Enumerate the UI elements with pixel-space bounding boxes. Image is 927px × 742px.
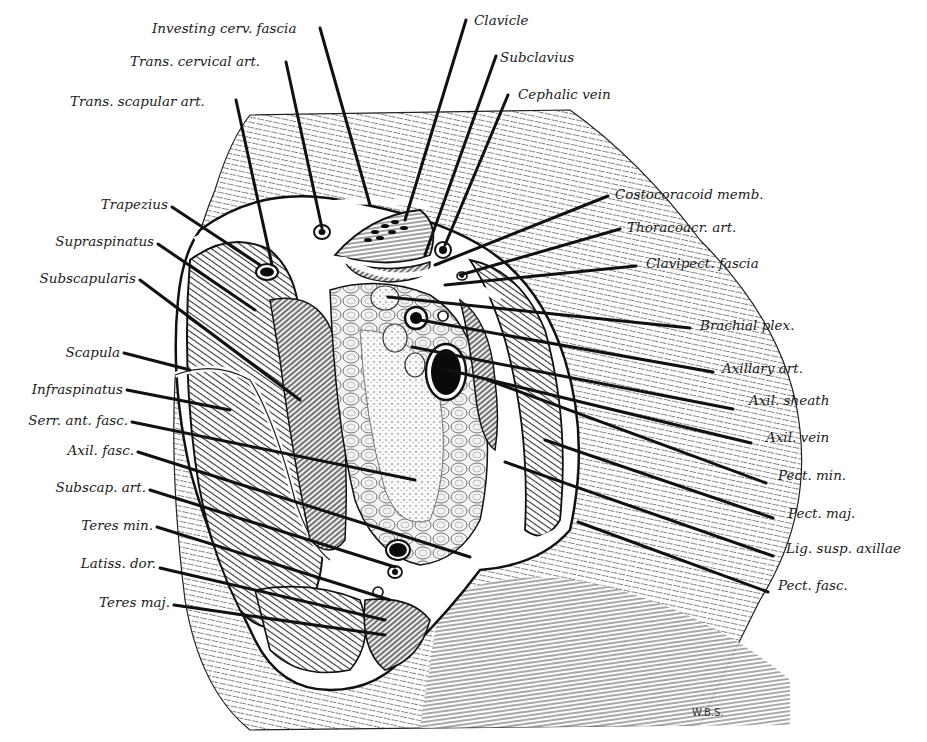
label-subscap-art: Subscap. art. xyxy=(55,479,146,495)
label-axil-fasc: Axil. fasc. xyxy=(66,442,134,458)
label-teres-min: Teres min. xyxy=(81,517,153,533)
label-latiss-dor: Latiss. dor. xyxy=(80,555,156,571)
label-axil-vein: Axil. vein xyxy=(764,429,829,445)
label-pect-fasc: Pect. fasc. xyxy=(777,577,848,593)
label-pect-min: Pect. min. xyxy=(777,467,846,483)
label-axillary-art: Axillary art. xyxy=(720,360,803,376)
label-clavipect-fascia: Clavipect. fascia xyxy=(646,255,759,271)
label-subscapularis: Subscapularis xyxy=(39,270,136,286)
artist-signature: W.B.S. xyxy=(692,707,723,718)
label-investing-cerv-fascia: Investing cerv. fascia xyxy=(151,20,296,36)
label-trans-scapular-art: Trans. scapular art. xyxy=(70,93,205,109)
axilla-section-illustration: Investing cerv. fasciaTrans. cervical ar… xyxy=(0,0,927,742)
label-teres-maj: Teres maj. xyxy=(99,594,170,610)
label-lig-susp-axillae: Lig. susp. axillae xyxy=(785,540,901,556)
label-trapezius: Trapezius xyxy=(101,196,168,212)
label-pect-maj: Pect. maj. xyxy=(787,505,855,521)
label-clavicle: Clavicle xyxy=(474,12,529,28)
label-brachial-plex: Brachial plex. xyxy=(699,317,795,333)
label-axil-sheath: Axil. sheath xyxy=(747,392,829,408)
label-supraspinatus: Supraspinatus xyxy=(55,233,154,249)
label-subclavius: Subclavius xyxy=(500,49,574,65)
anatomy-figure: Investing cerv. fasciaTrans. cervical ar… xyxy=(0,0,927,742)
label-thoracoacr-art: Thoracoacr. art. xyxy=(627,219,736,235)
label-infraspinatus: Infraspinatus xyxy=(31,381,123,397)
label-cephalic-vein: Cephalic vein xyxy=(518,86,611,102)
label-costocoracoid-memb: Costocoracoid memb. xyxy=(615,186,764,202)
label-serr-ant-fasc: Serr. ant. fasc. xyxy=(28,412,128,428)
label-scapula: Scapula xyxy=(65,344,120,360)
label-trans-cervical-art: Trans. cervical art. xyxy=(130,53,260,69)
